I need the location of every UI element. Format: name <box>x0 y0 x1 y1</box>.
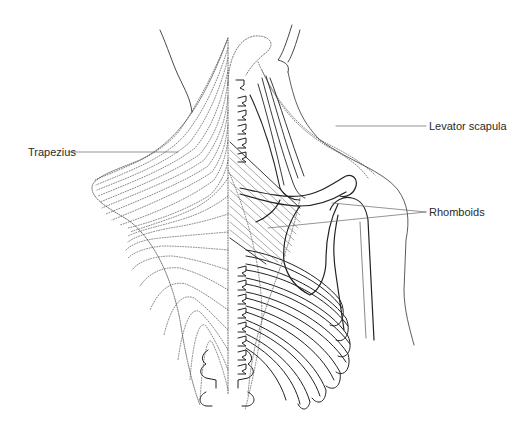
leader-lines <box>68 126 426 228</box>
trapezius-label: Trapezius <box>28 146 76 158</box>
levator-scapula-label: Levator scapula <box>429 120 507 132</box>
rhomboid-fibres <box>230 142 300 264</box>
shoulder-outline <box>288 72 414 345</box>
trapezius-fibres <box>92 38 375 410</box>
rhomboids-leader-upper <box>332 203 426 212</box>
humerus <box>330 198 374 341</box>
scapula <box>240 175 356 295</box>
skull-base-dotted <box>228 36 271 85</box>
levator-scapula-muscle <box>250 76 305 200</box>
anatomy-illustration <box>0 0 521 443</box>
neck-outline <box>160 25 300 112</box>
ribs <box>246 250 350 409</box>
rhomboids-label: Rhomboids <box>429 206 485 218</box>
